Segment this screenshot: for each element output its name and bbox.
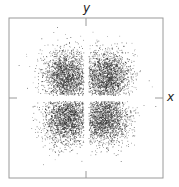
y-axis-label: y — [83, 1, 90, 15]
orbital-diagram — [0, 0, 179, 187]
x-axis-label: x — [167, 90, 174, 104]
dot-density-cloud — [19, 27, 157, 165]
plot-frame — [9, 18, 163, 178]
